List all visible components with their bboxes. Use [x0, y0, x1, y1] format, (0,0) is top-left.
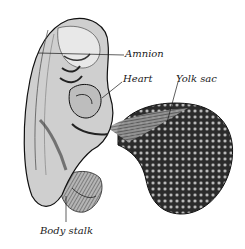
- heart-label: Heart: [123, 74, 152, 84]
- body-stalk-label: Body stalk: [40, 226, 93, 236]
- yolk-sac: [108, 103, 233, 214]
- yolk-sac-label: Yolk sac: [176, 74, 217, 84]
- amnion-label: Amnion: [125, 49, 164, 59]
- embryo-drawing: [0, 0, 245, 249]
- embryo-illustration: Amnion Heart Yolk sac Body stalk: [0, 0, 245, 249]
